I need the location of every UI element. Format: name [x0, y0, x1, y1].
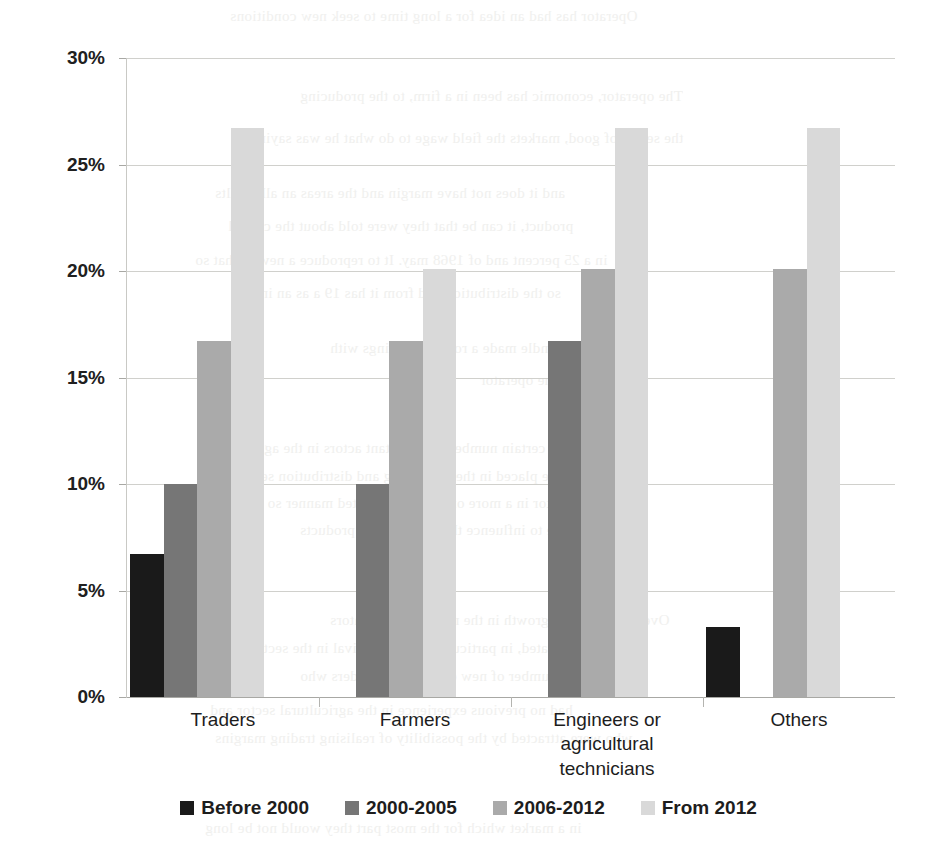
x-axis-category-label: Farmers: [319, 708, 511, 732]
y-axis-tick-label: 5%: [35, 581, 105, 600]
x-axis-category-label: Traders: [127, 708, 319, 732]
x-axis-tick-separator: [703, 697, 704, 707]
legend-label: 2000-2005: [366, 797, 457, 819]
y-axis-tick-label: 0%: [35, 687, 105, 706]
legend-label: From 2012: [662, 797, 757, 819]
legend-item[interactable]: From 2012: [641, 797, 757, 819]
legend-swatch-icon: [493, 801, 507, 815]
x-axis-label-line: Traders: [127, 708, 319, 732]
bar-2000-2005-traders: [164, 484, 198, 697]
legend-swatch-icon: [345, 801, 359, 815]
legend-item[interactable]: 2006-2012: [493, 797, 605, 819]
legend-label: 2006-2012: [514, 797, 605, 819]
x-axis-category-label: Others: [703, 708, 895, 732]
bar-2006-2012-traders: [197, 341, 231, 697]
bar-before-2000-others: [706, 627, 740, 697]
gridline-30: [127, 58, 895, 59]
bar-from-2012-engineers-or-agricultura: [615, 128, 649, 697]
bar-before-2000-traders: [130, 554, 164, 697]
y-axis-tick-label: 15%: [35, 368, 105, 387]
legend-item[interactable]: 2000-2005: [345, 797, 457, 819]
y-axis-tick-label: 30%: [35, 48, 105, 67]
x-axis-label-line: Others: [703, 708, 895, 732]
chart-legend: Before 20002000-20052006-2012From 2012: [0, 797, 937, 819]
bar-2000-2005-engineers-or-agricultura: [548, 341, 582, 697]
bar-from-2012-farmers: [423, 269, 457, 697]
legend-swatch-icon: [180, 801, 194, 815]
bar-chart: Before 20002000-20052006-2012From 2012 0…: [0, 0, 937, 856]
legend-label: Before 2000: [201, 797, 309, 819]
y-axis-tick-label: 25%: [35, 155, 105, 174]
y-axis-tick-label: 20%: [35, 261, 105, 280]
bar-2006-2012-engineers-or-agricultura: [581, 269, 615, 697]
y-axis-tick-label: 10%: [35, 474, 105, 493]
bar-2000-2005-farmers: [356, 484, 390, 697]
bar-2006-2012-farmers: [389, 341, 423, 697]
x-axis-tick-separator: [511, 697, 512, 707]
x-axis-label-line: Engineers or agricultural: [511, 708, 703, 757]
x-axis-label-line: Farmers: [319, 708, 511, 732]
bar-from-2012-others: [807, 128, 841, 697]
x-axis-label-line: technicians: [511, 757, 703, 781]
x-axis-category-label: Engineers or agriculturaltechnicians: [511, 708, 703, 781]
x-axis-tick-separator: [319, 697, 320, 707]
bar-from-2012-traders: [231, 128, 265, 697]
y-axis-line: [126, 58, 127, 698]
legend-swatch-icon: [641, 801, 655, 815]
plot-area: [127, 58, 895, 697]
bar-2006-2012-others: [773, 269, 807, 697]
legend-item[interactable]: Before 2000: [180, 797, 309, 819]
